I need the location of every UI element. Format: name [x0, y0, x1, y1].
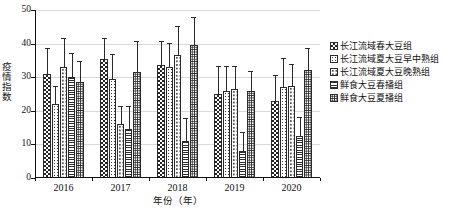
bar-group — [35, 10, 92, 178]
error-bar-cap — [289, 64, 294, 65]
bar — [52, 104, 60, 178]
error-bar — [137, 42, 138, 72]
x-axis-line — [35, 177, 320, 178]
legend-item-label: 鲜食大豆春播组 — [340, 80, 403, 90]
error-bar — [55, 87, 56, 104]
legend-swatch-icon — [330, 42, 338, 50]
error-bar — [283, 59, 284, 88]
bar — [182, 141, 190, 178]
error-bar — [300, 118, 301, 136]
error-bar-cap — [232, 66, 237, 67]
bar-group — [149, 10, 206, 178]
chart-figure: 疫情指数 01020304050 20162017201820192020 年份… — [0, 0, 449, 220]
error-bar-cap — [216, 66, 221, 67]
legend-item[interactable]: 长江流域夏大豆晚熟组 — [330, 66, 448, 77]
x-tick-mark — [320, 178, 321, 181]
bar — [280, 87, 288, 178]
error-bar — [218, 67, 219, 94]
x-tick-label: 2019 — [206, 182, 263, 193]
bar — [190, 45, 198, 178]
bar — [43, 74, 51, 178]
x-tick-label: 2016 — [35, 182, 92, 193]
error-bar-cap — [61, 38, 66, 39]
error-bar-cap — [134, 41, 139, 42]
bar — [157, 65, 165, 178]
error-bar — [80, 62, 81, 82]
error-bar — [64, 39, 65, 68]
bar — [288, 86, 296, 178]
y-tick-label: 30 — [0, 72, 37, 81]
legend-swatch-icon — [330, 81, 338, 89]
error-bar-cap — [248, 71, 253, 72]
legend-swatch-icon — [330, 55, 338, 63]
x-tick-mark — [263, 178, 264, 181]
error-bar — [308, 49, 309, 71]
error-bar-cap — [110, 54, 115, 55]
bar — [271, 101, 279, 178]
bar — [174, 55, 182, 178]
x-tick-label: 2017 — [92, 182, 149, 193]
chart-legend: 长江流域春大豆组长江流域夏大豆早中熟组长江流域夏大豆晚熟组鲜食大豆春播组鲜食大豆… — [330, 40, 448, 106]
legend-item[interactable]: 鲜食大豆春播组 — [330, 80, 448, 91]
error-bar-cap — [53, 86, 58, 87]
error-bar-cap — [45, 48, 50, 49]
error-bar-cap — [224, 66, 229, 67]
bar — [247, 91, 255, 178]
legend-item-label: 长江流域夏大豆晚熟组 — [340, 67, 430, 77]
error-bar-cap — [159, 41, 164, 42]
bar — [117, 124, 125, 178]
x-tick-label: 2020 — [263, 182, 320, 193]
y-tick-label: 20 — [0, 106, 37, 115]
bar — [60, 67, 68, 178]
y-tick-label: 50 — [0, 5, 37, 14]
bar — [223, 91, 231, 178]
error-bar — [161, 42, 162, 66]
error-bar-cap — [69, 53, 74, 54]
error-bar-cap — [118, 106, 123, 107]
x-tick-mark — [35, 178, 36, 181]
error-bar — [104, 39, 105, 58]
legend-item[interactable]: 长江流域春大豆组 — [330, 40, 448, 51]
bar — [166, 67, 174, 178]
legend-swatch-icon — [330, 68, 338, 76]
y-tick-label: 40 — [0, 39, 37, 48]
error-bar-cap — [102, 38, 107, 39]
error-bar-cap — [305, 48, 310, 49]
error-bar — [226, 67, 227, 91]
error-bar-cap — [273, 75, 278, 76]
y-axis-line — [35, 10, 36, 178]
x-axis-title: 年份（年） — [35, 196, 320, 207]
bar — [304, 70, 312, 178]
error-bar — [178, 27, 179, 56]
error-bar — [186, 119, 187, 141]
x-tick-mark — [92, 178, 93, 181]
bar — [133, 72, 141, 178]
error-bar — [112, 55, 113, 79]
error-bar-cap — [297, 117, 302, 118]
bar-group — [263, 10, 320, 178]
legend-item-label: 长江流域春大豆组 — [340, 41, 412, 51]
error-bar-cap — [175, 26, 180, 27]
error-bar-cap — [240, 132, 245, 133]
x-tick-mark — [206, 178, 207, 181]
error-bar — [251, 72, 252, 90]
bar — [296, 136, 304, 178]
bar — [231, 89, 239, 178]
error-bar — [47, 49, 48, 74]
bar-group — [206, 10, 263, 178]
y-axis-title: 疫情指数 — [0, 62, 11, 102]
error-bar — [292, 65, 293, 85]
x-tick-mark — [149, 178, 150, 181]
error-bar — [243, 133, 244, 151]
error-bar-cap — [183, 118, 188, 119]
bar — [239, 151, 247, 178]
error-bar — [121, 107, 122, 124]
legend-item[interactable]: 长江流域夏大豆早中熟组 — [330, 53, 448, 64]
bar — [214, 94, 222, 178]
error-bar — [129, 107, 130, 129]
bar — [125, 129, 133, 178]
legend-item[interactable]: 鲜食大豆夏播组 — [330, 93, 448, 104]
bar — [76, 82, 84, 178]
legend-swatch-icon — [330, 94, 338, 102]
error-bar — [72, 54, 73, 78]
